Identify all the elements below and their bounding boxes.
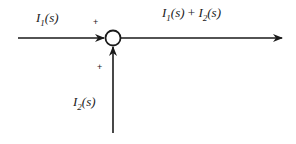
input-2-sign: + xyxy=(97,62,102,72)
input-1-label: I1(s) xyxy=(35,10,59,28)
block-diagram: + + I1(s) I2(s) I1(s) + I2(s) xyxy=(0,0,296,144)
summing-junction xyxy=(106,31,121,46)
output-label: I1(s) + I2(s) xyxy=(161,5,221,23)
input-1-sign: + xyxy=(93,17,98,27)
input-2-label: I2(s) xyxy=(72,94,96,112)
